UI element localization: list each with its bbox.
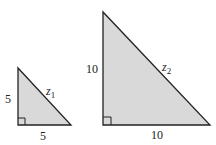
small-vertical-leg-label: 5 xyxy=(5,92,11,106)
large-vertical-leg-label: 10 xyxy=(86,62,98,76)
diagram-canvas: 5 5 z1 10 10 z2 xyxy=(0,0,216,145)
large-triangle-shape xyxy=(103,12,210,125)
small-hypotenuse-label: z1 xyxy=(45,84,55,100)
small-triangle: 5 5 z1 xyxy=(5,68,71,143)
large-triangle: 10 10 z2 xyxy=(86,12,210,142)
small-horizontal-leg-label: 5 xyxy=(40,129,46,143)
large-hypotenuse-label: z2 xyxy=(161,60,171,76)
large-horizontal-leg-label: 10 xyxy=(151,128,163,142)
small-triangle-shape xyxy=(18,68,71,125)
